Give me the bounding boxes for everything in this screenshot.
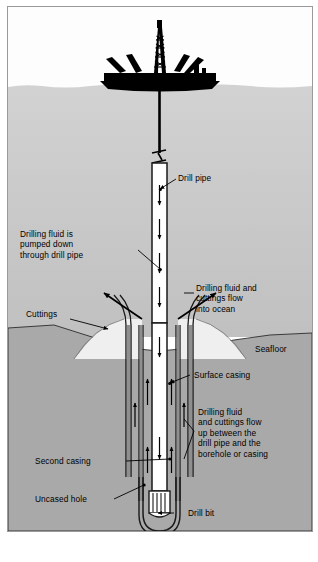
label-pumped-down: Drilling fluid is pumped down through dr… <box>20 229 83 260</box>
label-cuttings: Cuttings <box>26 309 57 319</box>
derrick-crown <box>157 20 162 28</box>
drill-collar <box>149 491 170 513</box>
label-surface-casing: Surface casing <box>194 370 250 380</box>
label-seafloor: Seafloor <box>255 344 287 354</box>
diagram-frame: Drill pipe Drilling fluid is pumped down… <box>7 6 313 532</box>
label-into-ocean: Drilling fluid and cuttings flow into oc… <box>196 283 257 314</box>
label-drill-pipe: Drill pipe <box>178 173 211 183</box>
deck-structure-1 <box>194 65 199 74</box>
screenshot-canvas: Drill pipe Drilling fluid is pumped down… <box>0 0 318 562</box>
label-up-between: Drilling fluid and cuttings flow up betw… <box>198 407 268 459</box>
label-uncased-hole: Uncased hole <box>35 494 87 504</box>
label-drill-bit: Drill bit <box>188 508 214 518</box>
ship-deck <box>104 73 216 81</box>
deck-structure-2 <box>202 68 206 74</box>
label-second-casing: Second casing <box>35 456 91 466</box>
